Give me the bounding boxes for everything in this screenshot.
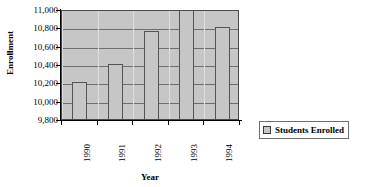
x-axis-tick-label: 1993 [190,128,199,162]
x-axis-tick-mark [168,120,169,125]
x-axis-tick-mark [97,120,98,125]
legend-item-label: Students Enrolled [275,125,344,135]
y-axis-tick-label: 10,000 [12,97,58,106]
x-axis-tick-mark [203,120,204,125]
bar [72,82,87,119]
bar-slot-separator [98,11,99,119]
x-axis-tick-mark [61,120,62,125]
y-axis-tick-mark [56,102,61,103]
bar [108,64,123,119]
x-axis-tick-mark [132,120,133,125]
x-axis-tick-mark [239,120,240,125]
bar-slot-separator [62,11,63,119]
y-axis-tick-label: 10,400 [12,61,58,70]
y-axis-tick-mark [56,47,61,48]
gridline [62,29,238,30]
bar-slot-separator [133,11,134,119]
bar [215,27,230,119]
chart-legend: Students Enrolled [259,121,349,139]
y-axis-tick-label: 10,800 [12,24,58,33]
bar-slot-separator [204,11,205,119]
bar-slot-separator [169,11,170,119]
y-axis-tick-label: 9,800 [12,116,58,125]
y-axis-tick-label: 10,600 [12,42,58,51]
y-axis-tick-mark [56,65,61,66]
x-axis-tick-label: 1992 [154,128,163,162]
plot-area [61,10,239,120]
bar-chart: Enrollment 9,80010,00010,20010,40010,600… [0,0,368,187]
y-axis-tick-label: 11,000 [12,6,58,15]
y-axis-tick-mark [56,10,61,11]
bar [179,10,194,119]
bar [144,31,159,119]
x-axis-line [56,120,242,121]
x-axis-tick-label: 1991 [118,128,127,162]
y-axis-tick-mark [56,83,61,84]
legend-swatch-icon [263,126,271,134]
x-axis-tick-label: 1990 [83,128,92,162]
y-axis-tick-labels: 9,80010,00010,20010,40010,60010,80011,00… [12,10,58,122]
x-axis-tick-label: 1994 [225,128,234,162]
y-axis-tick-label: 10,200 [12,79,58,88]
x-axis-title: Year [61,172,239,182]
y-axis-tick-mark [56,28,61,29]
